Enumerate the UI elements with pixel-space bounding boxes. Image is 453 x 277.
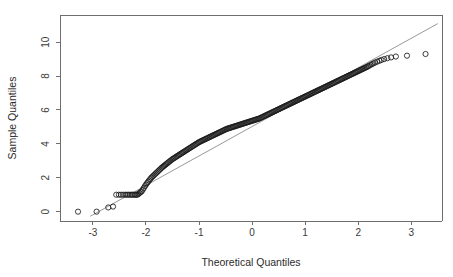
figure-background — [0, 0, 453, 277]
x-tick-label: -1 — [195, 227, 204, 238]
x-tick-label: 1 — [302, 227, 308, 238]
x-tick-label: -2 — [141, 227, 150, 238]
x-tick-label: 0 — [249, 227, 255, 238]
y-tick-label: 8 — [40, 73, 51, 79]
y-axis-title: Sample Quantiles — [6, 77, 18, 160]
y-tick-label: 10 — [40, 36, 51, 48]
qq-plot-canvas: -3-2-10123 0246810 Theoretical Quantiles… — [0, 0, 453, 277]
y-tick-label: 0 — [40, 208, 51, 214]
y-tick-label: 2 — [40, 175, 51, 181]
x-tick-label: 2 — [355, 227, 361, 238]
x-tick-label: -3 — [88, 227, 97, 238]
y-tick-label: 6 — [40, 107, 51, 113]
x-axis-title: Theoretical Quantiles — [201, 256, 300, 268]
x-tick-label: 3 — [408, 227, 414, 238]
y-tick-label: 4 — [40, 141, 51, 147]
qq-plot-figure: -3-2-10123 0246810 Theoretical Quantiles… — [0, 0, 453, 277]
